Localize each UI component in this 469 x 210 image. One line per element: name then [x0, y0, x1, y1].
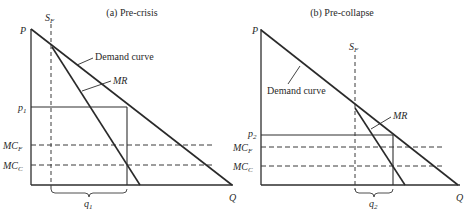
panel-a-mr-leader: [82, 81, 111, 91]
panel-a-q-axis-label: Q: [229, 192, 237, 203]
panel-a-demand-leader: [77, 58, 93, 65]
panel-b-demand-leader: [288, 66, 300, 84]
monopoly-pricing-figure: (a) Pre-crisis P Q SF MCF MCC p1 Demand …: [0, 0, 469, 210]
panel-a-pre-crisis: (a) Pre-crisis P Q SF MCF MCC p1 Demand …: [2, 7, 237, 210]
panel-a-mc-f-label: MCF: [2, 140, 23, 153]
panel-b-mc-f-label: MCF: [232, 142, 253, 155]
panel-b-price-label: p2: [247, 128, 257, 141]
panel-b-demand-curve: [261, 30, 458, 185]
panel-b-title: (b) Pre-collapse: [310, 7, 374, 19]
panel-a-mc-c-label: MCC: [2, 160, 23, 173]
panel-a-demand-label: Demand curve: [95, 51, 154, 62]
panel-b-demand-label: Demand curve: [267, 85, 326, 96]
panel-b-pre-collapse: (b) Pre-collapse P Q SF MCF MCC p2 Deman…: [232, 7, 464, 210]
panel-a-supply-label: SF: [45, 12, 55, 25]
panel-a-quantity-brace: [51, 189, 127, 197]
panel-a-p-axis-label: P: [19, 25, 26, 36]
panel-b-supply-label: SF: [349, 41, 359, 54]
panel-b-mc-c-label: MCC: [232, 161, 253, 174]
panel-b-quantity-brace: [355, 189, 393, 197]
panel-a-title: (a) Pre-crisis: [106, 7, 157, 19]
panel-a-mr-label: MR: [112, 75, 127, 86]
panel-a-price-label: p1: [17, 102, 27, 115]
panel-b-mr-label: MR: [392, 110, 407, 121]
panel-b-p-axis-label: P: [251, 25, 258, 36]
panel-a-quantity-label: q1: [84, 198, 93, 210]
panel-b-quantity-label: q2: [369, 198, 378, 210]
panel-b-q-axis-label: Q: [456, 192, 464, 203]
